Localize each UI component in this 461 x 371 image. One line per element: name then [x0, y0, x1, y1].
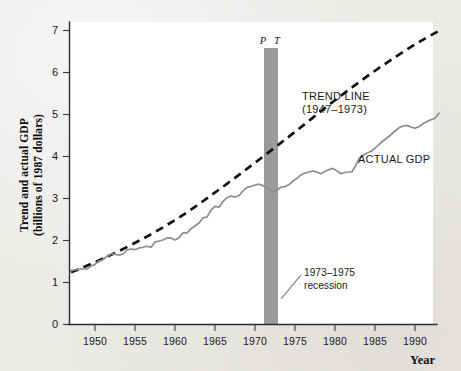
- x-tick-label-1960: 1960: [163, 335, 187, 347]
- x-tick-label-1970: 1970: [243, 335, 267, 347]
- y-tick-label-0: 0: [52, 318, 58, 330]
- x-tick-label-1980: 1980: [323, 335, 347, 347]
- y-tick-label-5: 5: [52, 108, 58, 120]
- y-tick-label-1: 1: [52, 276, 58, 288]
- y-axis-title-line2: (billions of 1987 dollars): [32, 114, 45, 236]
- y-axis-ticks: [63, 31, 69, 325]
- recession-label-line1: 1973–1975: [304, 267, 355, 278]
- x-tick-label-1985: 1985: [363, 335, 387, 347]
- recession-shaded-band: [264, 48, 278, 324]
- x-tick-label-1965: 1965: [203, 335, 227, 347]
- x-tick-label-1975: 1975: [283, 335, 307, 347]
- recession-label-line2: recession: [304, 280, 348, 291]
- y-tick-label-2: 2: [52, 234, 58, 246]
- y-tick-label-6: 6: [52, 66, 58, 78]
- actual-gdp-label: ACTUAL GDP: [358, 153, 430, 165]
- y-tick-label-7: 7: [52, 24, 58, 36]
- x-tick-label-1990: 1990: [403, 335, 427, 347]
- x-tick-label-1950: 1950: [83, 335, 107, 347]
- peak-marker-label: P: [259, 35, 267, 46]
- trend-line-label-line2: (1947–1973): [302, 103, 367, 115]
- x-axis-ticks: [95, 325, 415, 332]
- x-tick-label-1955: 1955: [123, 335, 147, 347]
- y-tick-label-3: 3: [52, 192, 58, 204]
- y-axis-title-line1: Trend and actual GDP: [18, 118, 31, 232]
- x-axis-title: Year: [410, 353, 435, 367]
- figure-container: P T 0 1 2 3 4 5 6 7: [0, 0, 461, 371]
- trend-line-label-line1: TREND LINE: [302, 90, 370, 102]
- gdp-trend-chart: P T 0 1 2 3 4 5 6 7: [0, 0, 461, 371]
- y-tick-label-4: 4: [52, 150, 58, 162]
